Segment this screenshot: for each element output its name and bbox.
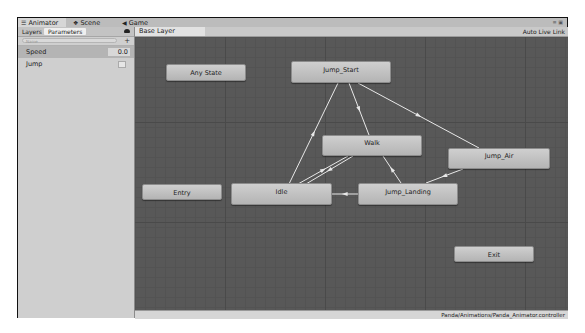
panel-header: Layers Parameters (18, 27, 134, 37)
tab-label: Animator (28, 19, 58, 27)
parameter-search-input[interactable]: Name (22, 38, 117, 43)
state-node-any[interactable]: Any State (166, 64, 246, 81)
parameter-bool-checkbox[interactable] (118, 61, 126, 68)
tab-animator[interactable]: ☰Animator (18, 18, 66, 27)
parameters-panel: Layers Parameters Name + Speed 0.0 Jump (18, 27, 135, 318)
parameter-float-field[interactable]: 0.0 (108, 48, 130, 56)
state-label: Jump_Air (485, 152, 514, 160)
transition-arrow-icon[interactable] (442, 173, 448, 177)
state-label: Jump_Start (323, 66, 359, 74)
state-label: Idle (276, 188, 288, 196)
breadcrumb-base-layer[interactable]: Base Layer (135, 27, 205, 36)
state-label: Any State (190, 69, 222, 77)
tab-scene[interactable]: ❖Scene (70, 18, 114, 27)
asset-path: Panda/Animations/Panda_Animator.controll… (441, 311, 565, 319)
transition-arrow-icon[interactable] (415, 113, 421, 117)
state-node-jump-air[interactable]: Jump_Air (448, 148, 550, 169)
animator-icon: ☰ (21, 18, 26, 27)
search-row: Name + (18, 37, 134, 46)
state-node-jump-start[interactable]: Jump_Start (291, 61, 391, 83)
state-node-idle[interactable]: Idle (231, 183, 332, 205)
parameter-row[interactable]: Speed 0.0 (18, 46, 134, 58)
auto-live-link-toggle[interactable]: Auto Live Link (523, 27, 565, 36)
animator-window: ☰Animator ❖Scene ◀Game ≡ ▣ Layers Parame… (17, 17, 568, 318)
state-node-entry[interactable]: Entry (142, 184, 222, 200)
state-label: Entry (173, 189, 190, 197)
state-machine-graph[interactable]: Any StateJump_StartWalkJump_AirEntryIdle… (135, 27, 568, 318)
transition-arrow-icon[interactable] (342, 192, 348, 196)
scene-icon: ❖ (73, 18, 78, 27)
state-label: Exit (488, 251, 500, 259)
transition-arrow-icon[interactable] (311, 131, 315, 137)
transition-arrow-icon[interactable] (390, 167, 395, 173)
state-label: Jump_Landing (385, 188, 431, 196)
transition-arrow-icon[interactable] (356, 106, 360, 112)
game-icon: ◀ (122, 18, 127, 27)
state-node-exit[interactable]: Exit (454, 246, 534, 262)
layers-tab[interactable]: Layers (22, 27, 42, 36)
status-bar: Panda/Animations/Panda_Animator.controll… (135, 310, 568, 319)
parameter-row[interactable]: Jump (18, 58, 134, 70)
state-label: Walk (364, 139, 380, 147)
breadcrumb-bar: Base Layer Auto Live Link (135, 27, 568, 37)
tab-game[interactable]: ◀Game (119, 18, 163, 27)
window-menu-icon[interactable]: ≡ ▣ (552, 18, 563, 27)
tab-label: Scene (80, 19, 100, 27)
parameter-name: Speed (26, 46, 46, 58)
tab-label: Game (129, 19, 148, 27)
state-node-jump-landing[interactable]: Jump_Landing (358, 183, 458, 205)
parameters-tab[interactable]: Parameters (44, 28, 86, 35)
parameter-name: Jump (26, 58, 43, 70)
eye-icon[interactable] (124, 29, 130, 33)
state-node-walk[interactable]: Walk (322, 135, 422, 156)
add-parameter-button[interactable]: + (124, 37, 130, 45)
